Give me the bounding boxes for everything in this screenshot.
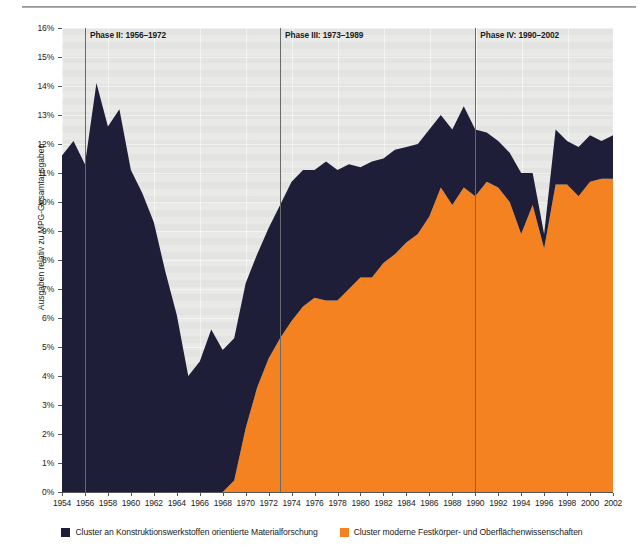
x-tick-mark [131,493,132,496]
x-tick-mark [383,493,384,496]
y-tick-label: 12% [20,140,54,149]
x-tick-mark [85,493,86,496]
y-tick-mark [58,202,62,203]
y-tick-mark [58,405,62,406]
x-tick-label: 2002 [593,498,633,508]
y-tick-label: 0% [20,488,54,497]
y-axis: Ausgaben relativ zu MPG-Gesamtausgaben 0… [18,0,62,551]
y-tick-label: 7% [20,285,54,294]
y-tick-mark [58,434,62,435]
phase-label: Phase II: 1956–1972 [90,30,166,40]
y-tick-label: 4% [20,372,54,381]
x-tick-mark [498,493,499,496]
x-tick-mark [223,493,224,496]
y-tick-mark [58,463,62,464]
x-tick-mark [567,493,568,496]
x-tick-mark [108,493,109,496]
y-tick-mark [58,260,62,261]
legend-item: Cluster moderne Festkörper- und Oberfläc… [340,527,583,537]
x-tick-mark [62,493,63,496]
y-tick-mark [58,289,62,290]
phase-label: Phase IV: 1990–2002 [480,30,559,40]
x-tick-mark [590,493,591,496]
phase-divider-line [475,28,476,492]
x-tick-mark [292,493,293,496]
y-tick-label: 2% [20,430,54,439]
y-tick-mark [58,347,62,348]
y-tick-label: 15% [20,53,54,62]
x-tick-mark [544,493,545,496]
legend-item: Cluster an Konstruktionswerkstoffen orie… [61,527,317,537]
x-tick-mark [475,493,476,496]
x-tick-mark [200,493,201,496]
x-tick-mark [613,493,614,496]
x-axis: 1954195619581960196219641966196819701972… [62,492,613,514]
y-tick-label: 10% [20,198,54,207]
y-tick-label: 1% [20,459,54,468]
x-tick-mark [269,493,270,496]
plot-area [62,28,613,492]
y-tick-mark [58,376,62,377]
x-tick-mark [452,493,453,496]
y-tick-label: 8% [20,256,54,265]
y-tick-label: 13% [20,111,54,120]
y-tick-label: 3% [20,401,54,410]
x-tick-mark [521,493,522,496]
stacked-area-chart: Phase II: 1956–1972Phase III: 1973–1989P… [0,0,644,551]
x-tick-mark [338,493,339,496]
x-tick-mark [177,493,178,496]
y-tick-mark [58,86,62,87]
y-tick-mark [58,57,62,58]
y-tick-mark [58,173,62,174]
y-tick-mark [58,144,62,145]
x-tick-mark [429,493,430,496]
series-svg [62,28,613,492]
figure-page: Phase II: 1956–1972Phase III: 1973–1989P… [0,0,644,551]
y-tick-mark [58,28,62,29]
phase-divider-line [280,28,281,492]
y-tick-label: 14% [20,82,54,91]
legend-swatch-icon [61,528,70,537]
x-tick-mark [315,493,316,496]
x-tick-mark [246,493,247,496]
chart-legend: Cluster an Konstruktionswerkstoffen orie… [0,522,644,542]
x-tick-mark [360,493,361,496]
y-tick-label: 5% [20,343,54,352]
y-tick-label: 11% [20,169,54,178]
y-tick-label: 6% [20,314,54,323]
y-tick-mark [58,231,62,232]
phase-label: Phase III: 1973–1989 [285,30,363,40]
legend-label: Cluster moderne Festkörper- und Oberfläc… [354,527,583,537]
x-tick-mark [406,493,407,496]
phase-divider-line [85,28,86,492]
y-tick-label: 9% [20,227,54,236]
y-tick-label: 16% [20,24,54,33]
x-tick-mark [154,493,155,496]
y-tick-mark [58,318,62,319]
y-tick-mark [58,115,62,116]
legend-label: Cluster an Konstruktionswerkstoffen orie… [75,527,317,537]
legend-swatch-icon [340,528,349,537]
